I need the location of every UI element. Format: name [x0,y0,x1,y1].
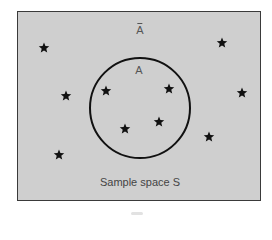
event-a-outcomes [101,84,174,134]
complement-label-text: A [136,24,143,36]
sample-space-label: Sample space S [100,176,180,188]
star-icon [164,84,174,94]
star-icon [101,86,111,96]
page-mark [131,212,143,215]
star-icon [61,91,71,101]
star-icon [217,38,227,48]
star-icon [120,124,130,134]
complement-outcomes [39,38,247,160]
complement-label: A [136,24,143,36]
star-icon [39,43,49,53]
event-label: A [135,64,142,76]
star-icon [204,132,214,142]
overbar [137,23,142,24]
star-icon [237,88,247,98]
star-icon [154,117,164,127]
star-icon [54,150,64,160]
